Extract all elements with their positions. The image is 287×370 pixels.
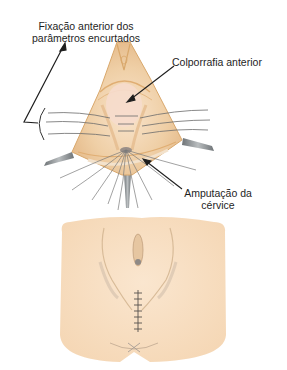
label-fixation: Fixação anterior dos parâmetros encurtad… [20,20,152,44]
label-fixation-line2: parâmetros encurtados [20,32,152,44]
postoperative-perineum [60,217,226,362]
label-amputation: Amputação da cérvice [180,187,256,211]
arrow-amputation [143,159,182,189]
arrow-fixation [24,43,66,123]
label-amputation-line2: cérvice [180,199,256,211]
bracket-icon [39,108,45,140]
label-colporrhaphy: Colporrafia anterior [172,56,262,68]
label-amputation-line1: Amputação da [180,187,256,199]
label-fixation-line1: Fixação anterior dos [20,20,152,32]
